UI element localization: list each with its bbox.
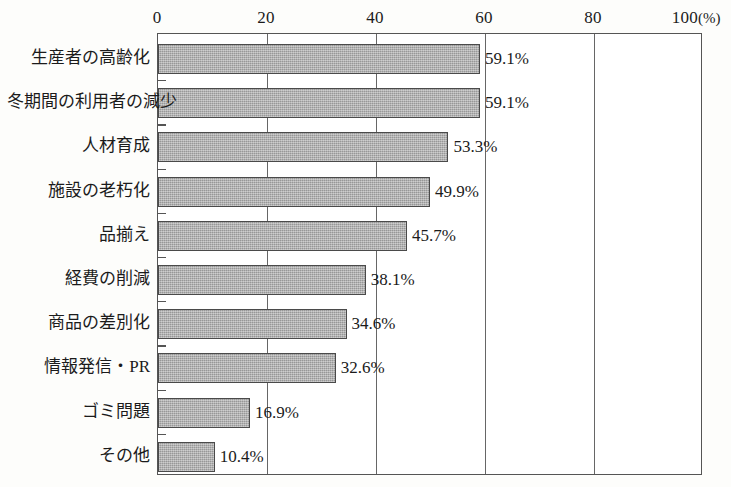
y-axis-tick bbox=[158, 345, 166, 346]
y-axis-tick bbox=[158, 80, 166, 81]
category-label-9: その他 bbox=[7, 446, 157, 466]
bar-row: 53.3% bbox=[158, 132, 703, 162]
category-label-0: 生産者の高齢化 bbox=[7, 48, 157, 68]
bar-3 bbox=[158, 177, 430, 207]
x-axis-tick-labels: 020406080100(%) bbox=[0, 8, 731, 32]
bar-4 bbox=[158, 221, 407, 251]
x-axis-tick-20: 20 bbox=[257, 8, 274, 28]
category-label-8: ゴミ問題 bbox=[7, 402, 157, 422]
bar-row: 45.7% bbox=[158, 221, 703, 251]
bar-row: 10.4% bbox=[158, 442, 703, 472]
y-axis-tick bbox=[158, 390, 166, 391]
category-label-2: 人材育成 bbox=[7, 136, 157, 156]
plot-area: 59.1%59.1%53.3%49.9%45.7%38.1%34.6%32.6%… bbox=[157, 33, 702, 475]
bar-value-label: 45.7% bbox=[412, 227, 456, 245]
x-axis-tick-40: 40 bbox=[366, 8, 383, 28]
bar-5 bbox=[158, 265, 366, 295]
bar-chart: 020406080100(%) 59.1%59.1%53.3%49.9%45.7… bbox=[0, 0, 731, 487]
bar-row: 32.6% bbox=[158, 353, 703, 383]
bar-value-label: 32.6% bbox=[341, 359, 385, 377]
x-axis-tick-80: 80 bbox=[584, 8, 601, 28]
category-label-5: 経費の削減 bbox=[7, 269, 157, 289]
bar-row: 38.1% bbox=[158, 265, 703, 295]
x-axis-unit-label: (%) bbox=[698, 10, 721, 26]
x-axis-tick-60: 60 bbox=[475, 8, 492, 28]
category-label-7: 情報発信・PR bbox=[7, 357, 157, 377]
y-axis-tick bbox=[158, 301, 166, 302]
bar-row: 59.1% bbox=[158, 44, 703, 74]
bar-value-label: 10.4% bbox=[220, 448, 264, 466]
y-axis-tick bbox=[158, 434, 166, 435]
bar-value-label: 49.9% bbox=[435, 183, 479, 201]
bar-0 bbox=[158, 44, 480, 74]
bar-9 bbox=[158, 442, 215, 472]
category-label-3: 施設の老朽化 bbox=[7, 181, 157, 201]
x-axis-tick-0: 0 bbox=[153, 8, 162, 28]
bar-8 bbox=[158, 398, 250, 428]
y-axis-tick bbox=[158, 169, 166, 170]
x-axis-tick-100: 100(%) bbox=[672, 8, 721, 28]
bar-row: 49.9% bbox=[158, 177, 703, 207]
y-axis-tick bbox=[158, 257, 166, 258]
category-label-4: 品揃え bbox=[7, 225, 157, 245]
bar-row: 16.9% bbox=[158, 398, 703, 428]
bar-6 bbox=[158, 309, 347, 339]
y-axis-tick bbox=[158, 124, 166, 125]
bar-value-label: 59.1% bbox=[485, 94, 529, 112]
bar-value-label: 53.3% bbox=[453, 138, 497, 156]
bar-row: 34.6% bbox=[158, 309, 703, 339]
bar-value-label: 59.1% bbox=[485, 50, 529, 68]
bar-2 bbox=[158, 132, 448, 162]
category-label-1: 冬期間の利用者の減少 bbox=[7, 92, 157, 112]
category-label-6: 商品の差別化 bbox=[7, 313, 157, 333]
y-axis-tick bbox=[158, 213, 166, 214]
bar-value-label: 34.6% bbox=[352, 315, 396, 333]
bar-value-label: 16.9% bbox=[255, 404, 299, 422]
bar-row: 59.1% bbox=[158, 88, 703, 118]
bar-value-label: 38.1% bbox=[371, 271, 415, 289]
bar-7 bbox=[158, 353, 336, 383]
y-axis-category-labels: 生産者の高齢化冬期間の利用者の減少人材育成施設の老朽化品揃え経費の削減商品の差別… bbox=[0, 33, 157, 475]
bar-1 bbox=[158, 88, 480, 118]
